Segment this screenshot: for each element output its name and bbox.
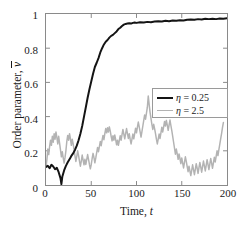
legend-value: 0.25 — [192, 92, 210, 103]
legend-label: η = 0.25 — [176, 93, 209, 103]
legend-item-eta-2-5: η = 2.5 — [153, 104, 227, 117]
legend-equals: = — [181, 105, 192, 116]
y-axis-title-prefix: Order parameter, — [11, 68, 23, 149]
legend-label: η = 2.5 — [176, 106, 204, 116]
legend: η = 0.25 η = 2.5 — [152, 88, 228, 118]
y-tick-label: 0.6 — [24, 79, 38, 90]
x-tick-label: 50 — [85, 188, 96, 199]
x-axis-title-symbol: t — [150, 205, 153, 217]
x-tick-label: 100 — [128, 188, 145, 199]
legend-item-eta-0-25: η = 0.25 — [153, 91, 227, 104]
x-tick-label: 150 — [174, 188, 191, 199]
x-tick-label: 0 — [42, 188, 48, 199]
y-tick-label: 0.8 — [24, 44, 38, 55]
x-axis-tick-labels: 0 50 100 150 200 — [0, 188, 245, 204]
y-axis-title-symbol: v — [11, 61, 23, 67]
x-tick-label: 200 — [220, 188, 237, 199]
y-tick-label: 1 — [33, 10, 39, 21]
legend-equals: = — [181, 92, 192, 103]
x-axis-title: Time, t — [45, 205, 228, 217]
figure-container: 1 0.8 0.6 0.4 0.2 0 Order parameter, v — [0, 0, 245, 228]
y-tick-label: 0.2 — [24, 148, 38, 159]
y-tick-label: 0.4 — [24, 113, 38, 124]
y-axis-title: Order parameter, v — [11, 30, 23, 180]
legend-swatch-icon — [157, 110, 173, 111]
legend-value: 2.5 — [192, 105, 205, 116]
x-axis-title-prefix: Time, — [120, 205, 150, 217]
legend-swatch-icon — [157, 97, 173, 99]
